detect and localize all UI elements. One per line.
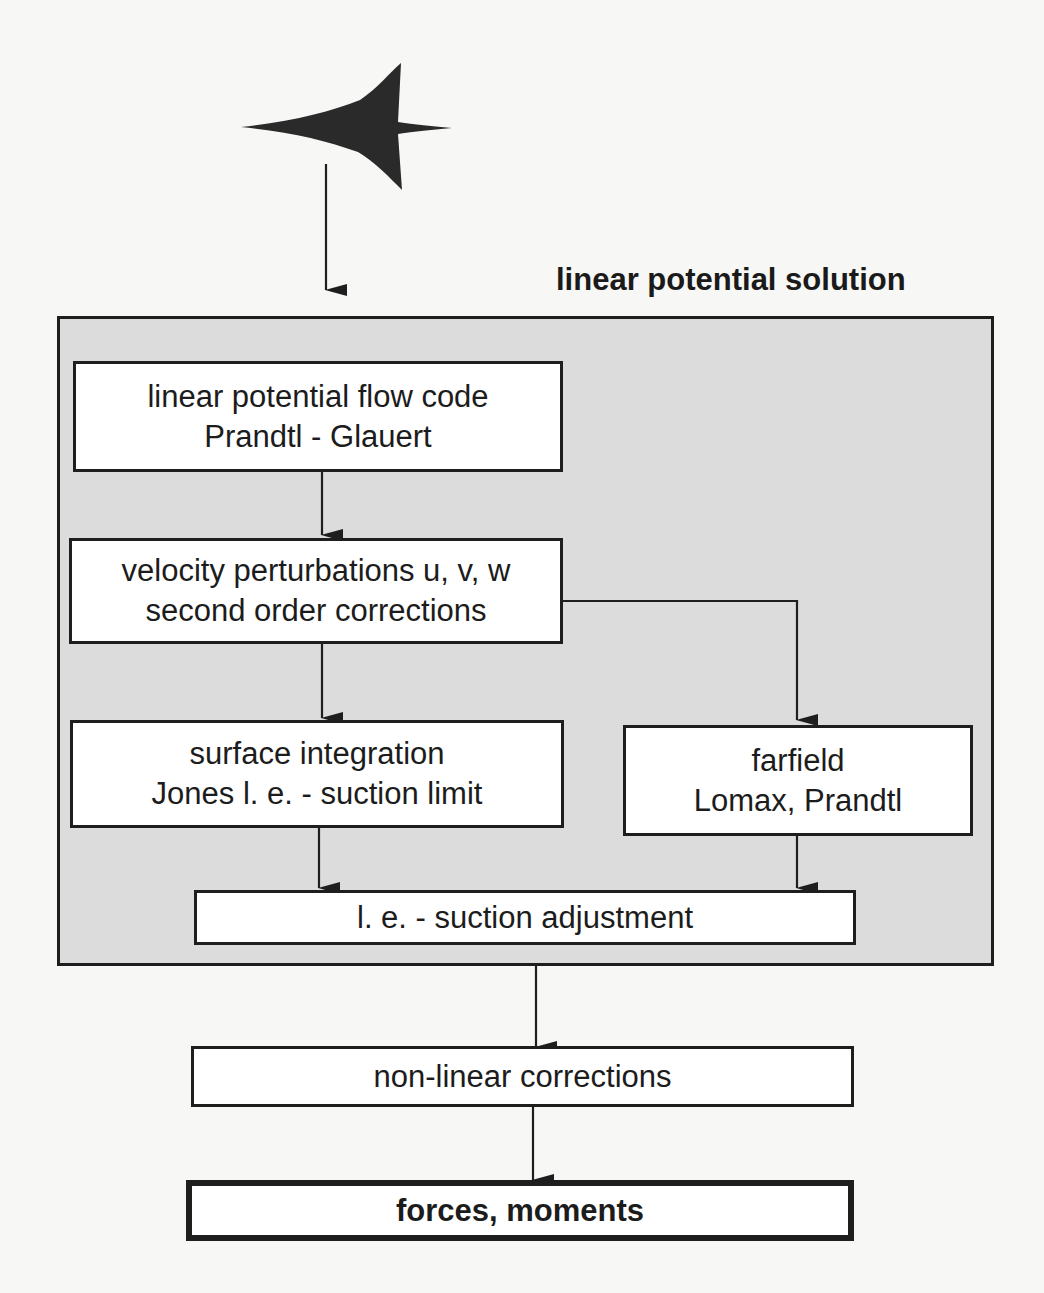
node-line: second order corrections [145,591,486,631]
aircraft-icon [241,63,452,190]
node-line: Prandtl - Glauert [204,417,431,457]
node-line: farfield [751,741,844,781]
node-line: forces, moments [396,1191,644,1231]
node-surface-integration: surface integration Jones l. e. - suctio… [70,720,564,828]
node-line: Lomax, Prandtl [694,781,903,821]
node-line: non-linear corrections [373,1057,671,1097]
node-linear-potential-flow-code: linear potential flow code Prandtl - Gla… [73,361,563,472]
node-non-linear-corrections: non-linear corrections [191,1046,854,1107]
node-velocity-perturbations: velocity perturbations u, v, w second or… [69,538,563,644]
node-farfield: farfield Lomax, Prandtl [623,725,973,836]
node-line: linear potential flow code [147,377,488,417]
node-suction-adjustment: l. e. - suction adjustment [194,890,856,945]
node-line: Jones l. e. - suction limit [152,774,483,814]
node-forces-moments: forces, moments [186,1180,854,1241]
node-line: velocity perturbations u, v, w [122,551,511,591]
node-line: surface integration [189,734,444,774]
node-line: l. e. - suction adjustment [357,898,693,938]
